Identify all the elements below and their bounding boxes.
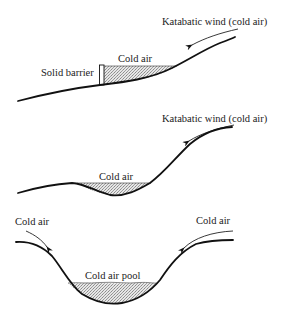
cold-air-label: Cold air [118,53,153,64]
wind-label: Katabatic wind (cold air) [162,113,268,125]
solid-barrier-label: Solid barrier [41,67,94,78]
cold-air-wedge [104,66,177,84]
panel-depression: Katabatic wind (cold air) Cold air [18,113,268,195]
cold-air-left-label: Cold air [15,216,50,227]
cold-air-pool-label: Cold air pool [85,270,140,281]
panel-valley: Cold air Cold air Cold air pool [15,215,233,304]
panel-barrier: Katabatic wind (cold air) Cold air Solid… [18,16,268,101]
solid-barrier [100,65,105,85]
wind-label: Katabatic wind (cold air) [162,16,268,28]
cold-air-right-label: Cold air [196,215,231,226]
katabatic-wind-diagram: Katabatic wind (cold air) Cold air Solid… [0,0,289,322]
cold-air-label: Cold air [99,171,134,182]
wind-arrow-icon [192,29,238,45]
